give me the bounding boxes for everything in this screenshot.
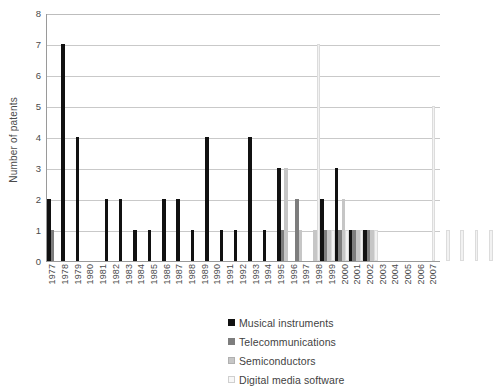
bar-group-1984 <box>148 14 162 261</box>
x-axis-tick-label-text: 2004 <box>390 264 400 284</box>
bar-group-1992 <box>263 14 277 261</box>
x-axis-tick-label-text: 1996 <box>289 264 299 284</box>
x-axis-tick-1984: 1984 <box>135 264 148 310</box>
bar-1992-series-0 <box>263 230 267 261</box>
x-axis-tick-2001: 2001 <box>351 264 364 310</box>
x-axis-tick-label-text: 1987 <box>174 264 184 284</box>
bar-group-1986 <box>176 14 190 261</box>
x-axis-tick-label-text: 2001 <box>352 264 362 284</box>
x-axis-tick-label-text: 1991 <box>225 264 235 284</box>
bar-group-1978 <box>61 14 75 261</box>
x-axis-tick-label-text: 1985 <box>149 264 159 284</box>
bar-group-1999 <box>363 14 377 261</box>
x-axis-tick-label-text: 2002 <box>365 264 375 284</box>
bar-group-1979 <box>76 14 90 261</box>
chart-legend: Musical instrumentsTelecommunicationsSem… <box>228 313 443 389</box>
bar-group-1982 <box>119 14 133 261</box>
bar-group-1987 <box>191 14 205 261</box>
bar-group-1993 <box>277 14 291 261</box>
bar-2007-series-3 <box>489 230 493 261</box>
bar-group-1990 <box>234 14 248 261</box>
bar-1979-series-0 <box>76 137 80 261</box>
x-axis-tick-label-text: 2003 <box>378 264 388 284</box>
y-axis-tick-labels: 012345678 <box>24 14 44 262</box>
x-axis-tick-1977: 1977 <box>46 264 59 310</box>
x-axis-tick-1979: 1979 <box>71 264 84 310</box>
y-axis-tick-4: 4 <box>36 133 41 143</box>
bar-1991-series-0 <box>248 137 252 261</box>
x-axis-tick-1996: 1996 <box>287 264 300 310</box>
legend-swatch-icon-1 <box>228 338 235 345</box>
x-axis-tick-1981: 1981 <box>97 264 110 310</box>
x-axis-tick-label-text: 1998 <box>314 264 324 284</box>
legend-swatch-icon-0 <box>228 319 235 326</box>
bar-1989-series-0 <box>220 230 224 261</box>
legend-item-3[interactable]: Digital media software <box>228 370 443 389</box>
legend-item-0[interactable]: Musical instruments <box>228 313 443 332</box>
legend-label-0: Musical instruments <box>239 317 334 329</box>
bar-group-2004 <box>435 14 449 261</box>
legend-item-2[interactable]: Semiconductors <box>228 351 443 370</box>
x-axis-tick-label-text: 2007 <box>428 264 438 284</box>
x-axis-tick-1985: 1985 <box>148 264 161 310</box>
x-axis-tick-label-text: 1993 <box>251 264 261 284</box>
x-axis-tick-1989: 1989 <box>198 264 211 310</box>
x-axis-tick-label-text: 1994 <box>263 264 273 284</box>
x-axis-tick-1997: 1997 <box>300 264 313 310</box>
bar-group-2007 <box>478 14 492 261</box>
y-axis-tick-6: 6 <box>36 71 41 81</box>
bar-1981-series-0 <box>105 199 109 261</box>
bar-1994-series-2 <box>299 230 303 261</box>
plot-area-wrapper: 012345678 <box>24 14 440 262</box>
y-axis-tick-1: 1 <box>36 226 41 236</box>
y-axis-tick-8: 8 <box>36 9 41 19</box>
bar-1993-series-2 <box>284 168 288 261</box>
x-axis-tick-label-text: 1979 <box>73 264 83 284</box>
bar-group-1988 <box>205 14 219 261</box>
bar-group-1996 <box>320 14 334 261</box>
legend-swatch-icon-2 <box>228 357 235 364</box>
bar-group-1994 <box>291 14 305 261</box>
legend-label-1: Telecommunications <box>239 336 336 348</box>
bar-group-1997 <box>335 14 349 261</box>
x-axis-tick-1988: 1988 <box>186 264 199 310</box>
x-axis-tick-label-text: 1982 <box>111 264 121 284</box>
bar-1983-series-0 <box>133 230 137 261</box>
bar-group-2003 <box>421 14 435 261</box>
x-axis-tick-label-text: 1977 <box>47 264 57 284</box>
bar-1985-series-0 <box>162 199 166 261</box>
bar-group-2005 <box>450 14 464 261</box>
x-axis-tick-1980: 1980 <box>84 264 97 310</box>
bar-group-2000 <box>378 14 392 261</box>
y-axis-title: Number of patents <box>2 0 24 280</box>
y-axis-tick-5: 5 <box>36 102 41 112</box>
legend-item-1[interactable]: Telecommunications <box>228 332 443 351</box>
bar-1977-series-1 <box>51 230 55 261</box>
x-axis-tick-label-text: 1999 <box>327 264 337 284</box>
x-axis-tick-2005: 2005 <box>402 264 415 310</box>
x-axis-tick-1995: 1995 <box>275 264 288 310</box>
bar-1990-series-0 <box>234 230 238 261</box>
legend-label-3: Digital media software <box>239 374 345 386</box>
x-axis-tick-label-text: 1986 <box>162 264 172 284</box>
y-axis-tick-2: 2 <box>36 195 41 205</box>
bar-group-1985 <box>162 14 176 261</box>
x-axis-tick-2007: 2007 <box>427 264 440 310</box>
x-axis-tick-label-text: 1989 <box>200 264 210 284</box>
x-axis-tick-label-text: 1995 <box>276 264 286 284</box>
x-axis-tick-1992: 1992 <box>237 264 250 310</box>
bar-group-1977 <box>47 14 61 261</box>
x-axis-tick-1986: 1986 <box>160 264 173 310</box>
bar-group-2006 <box>464 14 478 261</box>
bar-group-1983 <box>133 14 147 261</box>
x-axis-tick-label-text: 2005 <box>403 264 413 284</box>
x-axis-tick-2002: 2002 <box>364 264 377 310</box>
bar-group-1998 <box>349 14 363 261</box>
x-axis-tick-1978: 1978 <box>59 264 72 310</box>
bar-group-2002 <box>406 14 420 261</box>
x-axis-tick-1999: 1999 <box>325 264 338 310</box>
x-axis-tick-label-text: 1983 <box>124 264 134 284</box>
x-axis-tick-label-text: 1990 <box>212 264 222 284</box>
plot-area <box>46 14 440 262</box>
